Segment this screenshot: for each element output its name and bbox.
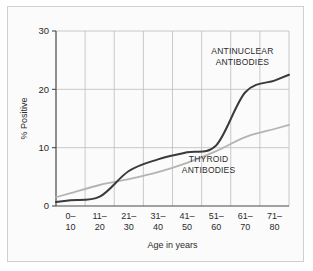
x-tick-label: 20 [95,222,105,232]
x-tick-label: 31– [150,211,165,221]
series-label: ANTINUCLEAR [211,46,273,56]
y-tick-label: 0 [44,200,49,211]
x-tick-label: 0– [66,211,76,221]
antibody-prevalence-chart: 0102030% Positive0–1011–2021–3031–4041–5… [8,7,303,261]
x-tick-label: 41– [180,211,195,221]
x-tick-label: 21– [121,211,136,221]
x-tick-label: 80 [269,222,279,232]
series-label: ANTIBODIES [182,165,236,175]
x-tick-label: 60 [211,222,221,232]
chart-frame: 0102030% Positive0–1011–2021–3031–4041–5… [7,6,304,262]
x-tick-label: 40 [153,222,163,232]
x-tick-label: 61– [238,211,253,221]
x-tick-label: 70 [240,222,250,232]
x-tick-label: 10 [66,222,76,232]
x-tick-label: 11– [93,211,107,221]
x-tick-label: 51– [209,211,224,221]
x-tick-label: 30 [124,222,134,232]
x-axis-title: Age in years [147,240,198,250]
series-label: ANTIBODIES [216,57,270,67]
y-tick-label: 30 [38,25,49,36]
x-tick-label: 71– [267,211,282,221]
chart-page: 0102030% Positive0–1011–2021–3031–4041–5… [0,0,313,271]
series-label: THYROID [189,154,229,164]
x-tick-label: 50 [182,222,192,232]
x-axis-labels: 0–1011–2021–3031–4041–5051–6061–7071–80 [66,211,282,232]
y-tick-label: 20 [38,84,49,95]
y-axis-ticks: 0102030 [38,25,56,211]
y-axis-title: % Positive [19,97,29,139]
y-tick-label: 10 [38,142,49,153]
